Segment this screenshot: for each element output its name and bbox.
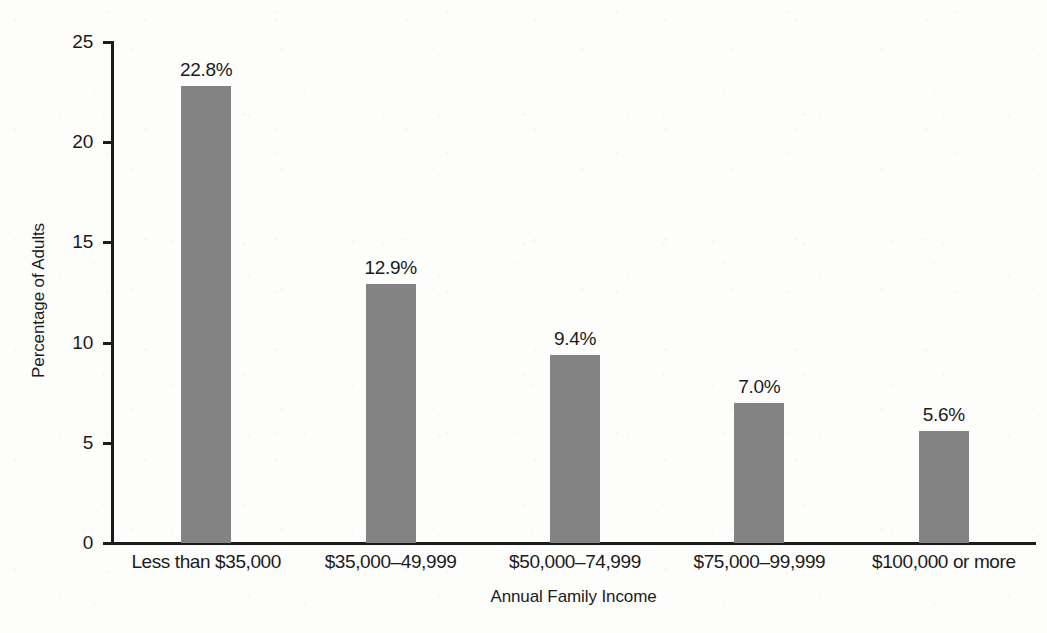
bar-group[interactable]: 9.4% — [550, 42, 600, 543]
y-axis-title: Percentage of Adults — [30, 171, 47, 431]
y-axis-tick-mark — [103, 342, 114, 345]
y-axis-tick-mark — [103, 41, 114, 44]
y-axis-tick-label: 0 — [33, 533, 93, 552]
x-axis-category-label: $35,000–49,999 — [298, 551, 482, 573]
bar-group[interactable]: 7.0% — [734, 42, 784, 543]
bar-chart-figure: 0510152025 Percentage of Adults Annual F… — [0, 0, 1047, 633]
x-axis-category-label: $100,000 or more — [852, 551, 1036, 573]
x-axis-title: Annual Family Income — [111, 588, 1036, 605]
bar-group[interactable]: 12.9% — [366, 42, 416, 543]
bar-value-label: 5.6% — [877, 405, 1011, 424]
bar-value-label: 7.0% — [692, 377, 826, 396]
bar-value-label: 22.8% — [139, 60, 273, 79]
x-axis-category-label: $50,000–74,999 — [483, 551, 667, 573]
y-axis-tick-mark — [103, 241, 114, 244]
y-axis-tick-label: 5 — [33, 433, 93, 452]
bar[interactable] — [366, 284, 416, 543]
bar-value-label: 12.9% — [324, 258, 458, 277]
bar[interactable] — [550, 355, 600, 543]
y-axis-tick-label: 25 — [33, 32, 93, 51]
bar[interactable] — [181, 86, 231, 543]
y-axis-ticks: 0510152025 — [0, 0, 115, 633]
x-axis-category-label: Less than $35,000 — [114, 551, 298, 573]
plot-area: 22.8%12.9%9.4%7.0%5.6% — [114, 42, 1036, 543]
bar-group[interactable]: 5.6% — [919, 42, 969, 543]
bar-group[interactable]: 22.8% — [181, 42, 231, 543]
x-axis-category-label: $75,000–99,999 — [667, 551, 851, 573]
y-axis-tick-mark — [103, 141, 114, 144]
x-axis-category-labels: Less than $35,000$35,000–49,999$50,000–7… — [114, 551, 1036, 579]
bar[interactable] — [734, 403, 784, 543]
bar-value-label: 9.4% — [508, 329, 642, 348]
y-axis-tick-mark — [103, 442, 114, 445]
bar[interactable] — [919, 431, 969, 543]
y-axis-tick-label: 20 — [33, 132, 93, 151]
